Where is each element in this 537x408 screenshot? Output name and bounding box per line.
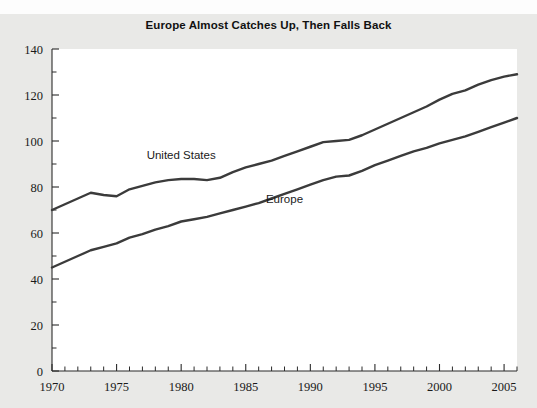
x-tick-label: 1970 <box>40 380 65 394</box>
y-tick-label: 0 <box>37 365 43 379</box>
series-annotation-united-states: United States <box>147 149 216 161</box>
x-tick-label: 2005 <box>492 380 517 394</box>
x-tick-label: 2000 <box>427 380 452 394</box>
x-tick-label: 1980 <box>169 380 194 394</box>
x-axis-labels: 19701975198019851990199520002005 <box>40 380 517 394</box>
chart-figure: Europe Almost Catches Up, Then Falls Bac… <box>0 0 537 408</box>
x-tick-label: 1975 <box>104 380 129 394</box>
x-tick-label: 1985 <box>233 380 258 394</box>
y-axis-labels: 020406080100120140 <box>24 43 43 379</box>
series-annotation-europe: Europe <box>266 193 303 205</box>
y-tick-label: 140 <box>24 43 43 57</box>
line-chart-plot: 020406080100120140 197019751980198519901… <box>0 0 537 408</box>
y-tick-label: 20 <box>31 319 44 333</box>
y-tick-label: 100 <box>24 135 43 149</box>
y-tick-label: 120 <box>24 89 43 103</box>
x-tick-label: 1995 <box>362 380 387 394</box>
y-tick-label: 80 <box>31 181 44 195</box>
x-tick-label: 1990 <box>298 380 323 394</box>
y-tick-label: 60 <box>31 227 44 241</box>
y-tick-label: 40 <box>31 273 44 287</box>
